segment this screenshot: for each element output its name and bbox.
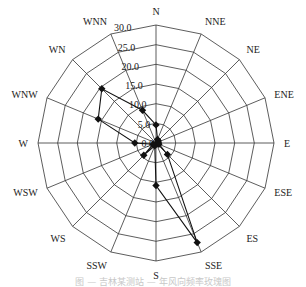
radial-tick-label: 30.0 [114, 22, 132, 33]
wind-rose-chart: 0.05.010.015.020.025.030.0 NNNENEENEEESE… [0, 0, 306, 287]
figure-caption: 图 — 吉林某测站 — 年风向频率玫瑰图 [0, 275, 306, 287]
series-polygon [98, 89, 197, 243]
data-marker [194, 239, 201, 246]
direction-label: WN [49, 44, 66, 55]
direction-label: ENE [274, 89, 293, 100]
data-marker [152, 182, 159, 189]
direction-label: ESE [274, 187, 292, 198]
direction-label: ES [247, 233, 259, 244]
direction-label: NE [247, 44, 260, 55]
data-marker [131, 139, 138, 146]
direction-label: SSE [205, 260, 222, 271]
radial-tick-label: 5.0 [138, 119, 151, 130]
radial-tick-label: 15.0 [125, 80, 143, 91]
data-marker [95, 115, 102, 122]
direction-label: WNW [12, 89, 39, 100]
direction-label: WS [51, 233, 66, 244]
direction-label: W [19, 138, 29, 149]
direction-label: WSW [13, 187, 38, 198]
data-series [95, 85, 201, 246]
radial-tick-label: 20.0 [122, 61, 140, 72]
direction-label: N [152, 6, 159, 17]
radial-tick-label: 25.0 [118, 42, 136, 53]
direction-label: WNN [83, 16, 107, 27]
direction-label: E [284, 138, 290, 149]
direction-label: SSW [86, 260, 107, 271]
spoke-line [156, 60, 239, 143]
direction-label: NNE [205, 16, 226, 27]
